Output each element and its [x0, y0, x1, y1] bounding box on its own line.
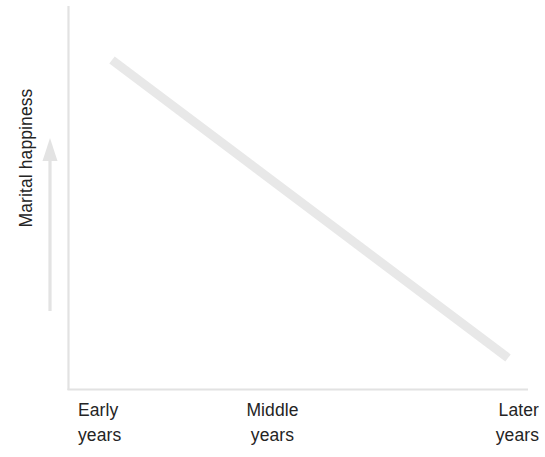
x-tick-label-line-2: years	[496, 423, 539, 448]
chart-figure: Marital happiness Early years Middle yea…	[0, 0, 545, 457]
trend-line-marital-happiness	[112, 60, 508, 358]
up-arrow-icon	[43, 138, 58, 311]
x-axis-tick-label-later-years: Later years	[496, 398, 539, 448]
y-axis-title: Marital happiness	[12, 18, 40, 298]
chart-plot-area	[0, 0, 545, 457]
x-axis-tick-label-middle-years: Middle years	[0, 398, 545, 448]
x-tick-label-line-1: Later	[496, 398, 539, 423]
x-tick-label-line-1: Middle	[0, 398, 545, 423]
x-tick-label-line-2: years	[0, 423, 545, 448]
